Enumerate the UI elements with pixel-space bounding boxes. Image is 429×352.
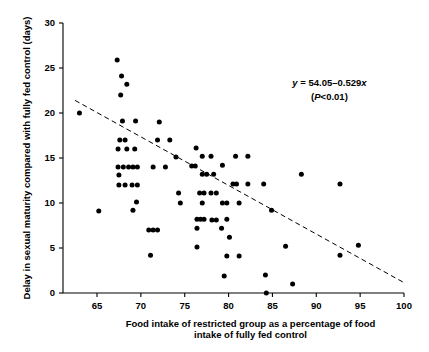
data-point [237, 254, 242, 259]
significance-annotation: (P<0.01) [311, 91, 348, 102]
data-point [263, 273, 268, 278]
axis-tick-labels: 05101520253065707580859095100 [44, 17, 412, 311]
data-point [123, 183, 128, 188]
data-point [157, 120, 162, 125]
data-point [209, 191, 214, 196]
y-tick-label: 0 [50, 287, 55, 298]
x-tick-label: 65 [92, 300, 103, 311]
data-point [356, 243, 361, 248]
data-point [176, 191, 181, 196]
data-point [115, 57, 120, 62]
y-axis-title: Delay in sexual maturity compared with f… [21, 17, 32, 300]
data-point [209, 218, 214, 223]
data-point [299, 172, 304, 177]
data-point [222, 273, 227, 278]
data-point [121, 165, 126, 170]
data-point [220, 201, 225, 206]
data-point [224, 254, 229, 259]
x-tick-label: 90 [311, 300, 322, 311]
data-point [148, 253, 153, 258]
data-point [227, 235, 232, 240]
data-point [130, 208, 135, 213]
data-point [194, 226, 199, 231]
x-tick-label: 95 [355, 300, 366, 311]
data-point [220, 163, 225, 168]
axis-ticks [59, 23, 404, 297]
data-point [118, 93, 123, 98]
data-point [269, 208, 274, 213]
data-point [116, 173, 121, 178]
chart-canvas: 05101520253065707580859095100 y = 54.05–… [0, 0, 429, 352]
data-point [245, 182, 250, 187]
data-point [261, 182, 266, 187]
data-point [245, 154, 250, 159]
data-point [155, 228, 160, 233]
axis-lines [63, 23, 404, 293]
data-point [124, 147, 129, 152]
data-point [200, 201, 205, 206]
data-point [151, 228, 156, 233]
data-point [202, 217, 207, 222]
data-point [200, 172, 205, 177]
data-point [119, 74, 124, 79]
data-point [117, 138, 122, 143]
data-point [194, 146, 199, 151]
x-tick-label: 75 [179, 300, 190, 311]
data-point [234, 182, 239, 187]
data-point [204, 172, 209, 177]
data-point [214, 191, 219, 196]
data-point [197, 191, 202, 196]
data-point [200, 154, 205, 159]
data-point [130, 183, 135, 188]
data-point [163, 165, 168, 170]
y-tick-label: 20 [44, 107, 55, 118]
data-point [120, 119, 125, 124]
x-tick-label: 70 [136, 300, 147, 311]
y-tick-label: 10 [44, 197, 55, 208]
data-point [337, 182, 342, 187]
data-point [178, 201, 183, 206]
data-point [126, 165, 131, 170]
x-tick-label: 85 [267, 300, 278, 311]
data-point [224, 201, 229, 206]
x-axis-title-line2: intake of fully fed control [194, 329, 307, 340]
data-point [135, 165, 140, 170]
x-axis-title-line1: Food intake of restricted group as a per… [126, 318, 376, 329]
data-point [123, 138, 128, 143]
data-point [134, 200, 139, 205]
data-point [211, 172, 216, 177]
x-tick-label: 80 [223, 300, 234, 311]
scatter-chart: 05101520253065707580859095100 y = 54.05–… [0, 0, 429, 352]
data-point [337, 253, 342, 258]
data-point [233, 154, 238, 159]
data-point [264, 291, 269, 296]
data-point [155, 138, 160, 143]
data-point [116, 165, 121, 170]
data-point [202, 191, 207, 196]
data-point [214, 218, 219, 223]
data-point [133, 119, 138, 124]
data-point [167, 138, 172, 143]
axes [63, 23, 404, 293]
y-tick-label: 25 [44, 62, 55, 73]
data-point [283, 244, 288, 249]
data-point [237, 201, 242, 206]
data-point [77, 111, 82, 116]
data-point [151, 165, 156, 170]
y-tick-label: 5 [50, 242, 56, 253]
y-tick-label: 30 [44, 17, 55, 28]
data-point [146, 228, 151, 233]
data-point [209, 154, 214, 159]
data-point [124, 82, 129, 87]
data-point [116, 183, 121, 188]
data-point [290, 282, 295, 287]
data-point [224, 217, 229, 222]
data-point [132, 147, 137, 152]
data-point [116, 147, 121, 152]
data-point [173, 155, 178, 160]
data-point [135, 183, 140, 188]
data-point [193, 164, 198, 169]
data-point [96, 209, 101, 214]
chart-annotations: y = 54.05–0.529x(P<0.01) [291, 77, 367, 102]
data-point [194, 245, 199, 250]
